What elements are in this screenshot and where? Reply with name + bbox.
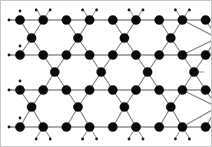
lattice-site	[189, 67, 198, 76]
lattice-site	[85, 122, 94, 131]
lattice-site	[201, 122, 210, 131]
lattice-site	[62, 50, 71, 59]
open-bond-marker	[8, 54, 11, 57]
lattice-site	[73, 33, 82, 42]
open-bond-marker	[35, 138, 38, 141]
lattice-site	[108, 122, 117, 131]
lattice-site	[39, 85, 48, 94]
lattice-site	[178, 15, 187, 24]
lattice-site	[15, 85, 24, 94]
open-bond-marker	[188, 9, 191, 12]
open-bond-marker	[19, 10, 22, 13]
lattice-site	[131, 122, 140, 131]
open-bond-marker	[174, 9, 177, 12]
open-bond-marker	[8, 89, 11, 92]
lattice-site	[27, 102, 36, 111]
lattice-stubs-layer	[9, 9, 212, 138]
lattice-site	[39, 15, 48, 24]
lattice-site	[108, 85, 117, 94]
open-bond-marker	[49, 138, 52, 141]
lattice-site	[131, 85, 140, 94]
lattice-site	[39, 50, 48, 59]
lattice-site	[27, 33, 36, 42]
lattice-site	[131, 15, 140, 24]
lattice-site	[120, 33, 129, 42]
lattice-site	[73, 102, 82, 111]
lattice-site	[155, 15, 164, 24]
lattice-site	[15, 15, 24, 24]
lattice-edges-layer	[10, 20, 212, 127]
figure-canvas: Kagome lattice network diagram	[0, 0, 212, 147]
lattice-site	[62, 122, 71, 131]
open-bond-marker	[174, 138, 177, 141]
lattice-site	[178, 122, 187, 131]
open-bond-marker	[81, 138, 84, 141]
lattice-site	[120, 102, 129, 111]
open-bond-marker	[142, 9, 145, 12]
open-bond-marker	[35, 9, 38, 12]
lattice-site	[155, 122, 164, 131]
lattice-site	[131, 50, 140, 59]
open-bond-marker	[19, 117, 22, 120]
lattice-site	[15, 50, 24, 59]
open-bond-marker	[142, 138, 145, 141]
open-bond-marker	[49, 9, 52, 12]
open-bond-marker	[81, 9, 84, 12]
open-bond-marker	[95, 138, 98, 141]
lattice-site	[108, 50, 117, 59]
lattice-site	[85, 15, 94, 24]
lattice-site	[201, 15, 210, 24]
lattice-site	[166, 102, 175, 111]
lattice-site	[155, 85, 164, 94]
lattice-site	[97, 67, 106, 76]
lattice-site	[201, 50, 210, 59]
lattice-site	[108, 15, 117, 24]
lattice-site	[178, 85, 187, 94]
open-bond-marker	[8, 19, 11, 22]
lattice-site	[155, 50, 164, 59]
lattice-site	[15, 122, 24, 131]
lattice-site	[62, 15, 71, 24]
lattice-site	[85, 85, 94, 94]
lattice-site	[62, 85, 71, 94]
lattice-site	[166, 33, 175, 42]
open-bond-marker	[128, 138, 131, 141]
open-bond-marker	[188, 138, 191, 141]
lattice-site	[39, 122, 48, 131]
open-bond-marker	[8, 126, 11, 129]
open-bond-marker	[19, 80, 22, 83]
open-bond-marker	[128, 9, 131, 12]
open-bond-marker	[95, 9, 98, 12]
kagome-lattice-diagram	[0, 0, 212, 147]
lattice-site	[143, 67, 152, 76]
open-bond-marker	[19, 45, 22, 48]
lattice-site	[85, 50, 94, 59]
lattice-site	[201, 85, 210, 94]
lattice-site	[50, 67, 59, 76]
lattice-site	[178, 50, 187, 59]
